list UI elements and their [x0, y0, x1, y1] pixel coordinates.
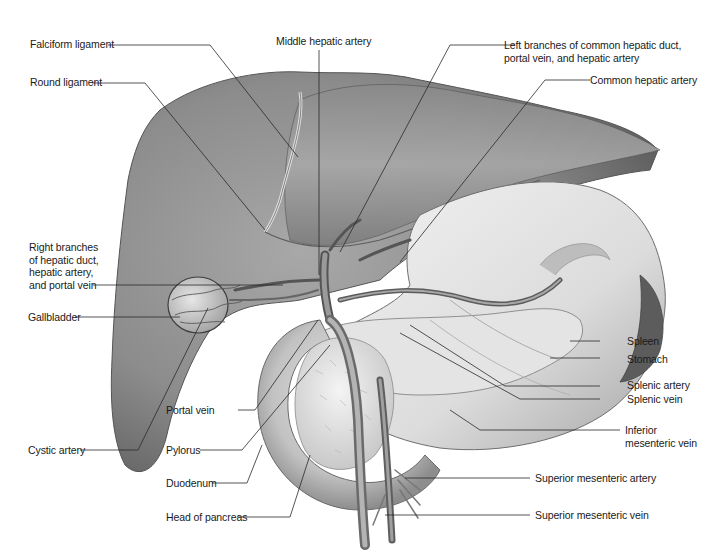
- label-common-hepatic-artery: Common hepatic artery: [590, 74, 697, 87]
- label-portal-vein: Portal vein: [166, 404, 215, 417]
- label-middle-hepatic-artery: Middle hepatic artery: [276, 35, 371, 48]
- label-splenic-vein: Splenic vein: [627, 393, 682, 406]
- label-stomach: Stomach: [627, 353, 668, 366]
- label-cystic-artery: Cystic artery: [28, 444, 85, 457]
- label-inferior-mesenteric-vein: Inferior mesenteric vein: [625, 424, 697, 449]
- label-spleen: Spleen: [627, 335, 659, 348]
- label-superior-mesenteric-artery: Superior mesenteric artery: [535, 472, 656, 485]
- label-gallbladder: Gallbladder: [28, 311, 81, 324]
- label-pylorus: Pylorus: [166, 444, 200, 457]
- label-right-branches: Right branches of hepatic duct, hepatic …: [29, 241, 99, 291]
- label-head-of-pancreas: Head of pancreas: [166, 511, 247, 524]
- label-falciform-ligament: Falciform ligament: [30, 38, 114, 51]
- label-splenic-artery: Splenic artery: [627, 379, 690, 392]
- label-round-ligament: Round ligament: [30, 76, 102, 89]
- label-superior-mesenteric-vein: Superior mesenteric vein: [535, 509, 649, 522]
- label-left-branches: Left branches of common hepatic duct, po…: [504, 39, 681, 64]
- label-duodenum: Duodenum: [166, 477, 217, 490]
